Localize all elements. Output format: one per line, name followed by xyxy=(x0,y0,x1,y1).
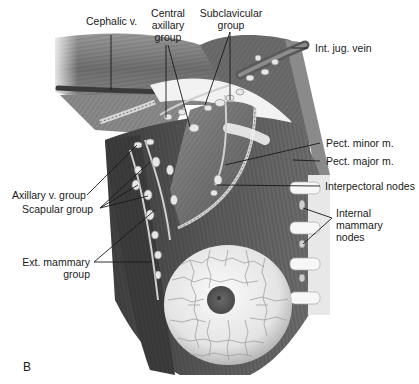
label-cephalic-vein: Cephalic v. xyxy=(86,15,137,27)
label-axillary-v-group: Axillary v. group xyxy=(12,189,86,201)
label-subclavicular-line2: group xyxy=(198,19,264,31)
label-internal-mammary-nodes: Internal mammary nodes xyxy=(336,207,383,243)
anatomy-figure: Cephalic v. Central axillary group Subcl… xyxy=(0,0,419,384)
label-central-axillary-group: Central axillary group xyxy=(148,7,188,43)
label-central-axillary-line2: axillary xyxy=(148,19,188,31)
label-central-axillary-line3: group xyxy=(148,31,188,43)
label-central-axillary-line1: Central xyxy=(148,7,188,19)
label-scapular-group: Scapular group xyxy=(22,203,93,215)
label-interpectoral-nodes: Interpectoral nodes xyxy=(325,180,415,192)
label-subclavicular-line1: Subclavicular xyxy=(198,7,264,19)
breast xyxy=(164,245,292,365)
label-internal-mammary-line3: nodes xyxy=(336,231,383,243)
panel-letter: B xyxy=(23,360,31,374)
label-ext-mammary-line2: group xyxy=(20,268,90,280)
label-ext-mammary-group: Ext. mammary group xyxy=(20,256,90,280)
label-ext-mammary-line1: Ext. mammary xyxy=(20,256,90,268)
label-subclavicular-group: Subclavicular group xyxy=(198,7,264,31)
label-internal-mammary-line2: mammary xyxy=(336,219,383,231)
label-internal-mammary-line1: Internal xyxy=(336,207,383,219)
label-pect-major: Pect. major m. xyxy=(326,155,394,167)
label-pect-minor: Pect. minor m. xyxy=(326,137,394,149)
label-int-jug-vein: Int. jug. vein xyxy=(315,42,372,54)
